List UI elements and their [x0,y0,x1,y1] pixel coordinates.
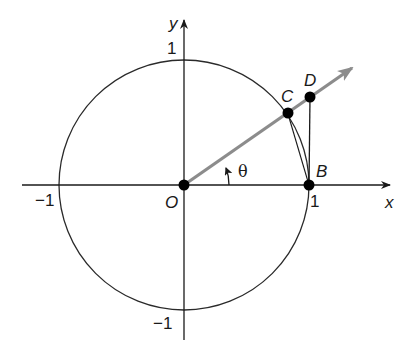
x-tick-neg1: −1 [35,191,54,210]
label-c: C [281,87,294,106]
x-tick-1: 1 [310,192,319,211]
label-d: D [304,71,316,90]
point-d [305,92,316,103]
label-b: B [316,162,327,181]
y-axis-label: y [168,14,179,33]
point-b [304,180,315,191]
segment-bd [309,97,310,185]
y-tick-1: 1 [167,39,176,58]
chord-cb [288,114,309,185]
point-c [283,108,294,119]
label-o: O [165,193,178,212]
y-tick-neg1: −1 [153,314,172,333]
angle-arc-icon [226,168,229,185]
x-axis-label: x [384,193,394,212]
point-o [179,180,190,191]
unit-circle-diagram: y 1 −1 −1 1 x O B C D θ [0,0,410,355]
angle-theta-label: θ [238,162,248,181]
